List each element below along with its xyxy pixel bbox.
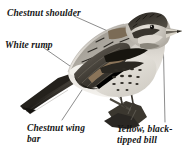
leader-line-white-rump	[44, 48, 70, 66]
label-chestnut-shoulder: Chestnut shoulder	[7, 8, 81, 19]
bill	[166, 28, 182, 38]
bird-illustration-plate: Chestnut shoulder White rump Chestnut wi…	[0, 0, 186, 153]
label-white-rump: White rump	[5, 40, 53, 51]
eye	[150, 25, 154, 29]
label-yellow-black-tipped-bill: Yellow, black- tipped bill	[117, 124, 172, 145]
label-chestnut-wing-bar: Chestnut wing bar	[27, 123, 85, 144]
